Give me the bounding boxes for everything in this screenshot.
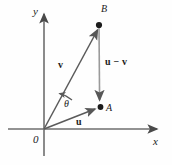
x-axis-label: x [153, 136, 158, 147]
point-a-label: A [106, 103, 112, 113]
vector-u-minus-v-arrow [99, 27, 100, 100]
y-axis-label: y [33, 6, 38, 17]
point-b-dot [96, 22, 102, 28]
point-b-label: B [101, 4, 107, 14]
vector-v-label: v [58, 60, 63, 70]
angle-theta-label: θ [64, 99, 69, 109]
vector-u-arrow [44, 109, 95, 129]
vector-diagram-figure: y x 0 B A v u u − v θ [0, 0, 172, 165]
vector-v-arrow [44, 30, 98, 129]
origin-label: 0 [33, 134, 39, 145]
vector-u-label: u [76, 117, 82, 127]
point-a-dot [98, 104, 104, 110]
vector-u-minus-v-label: u − v [105, 57, 127, 67]
vector-diagram-canvas [0, 0, 172, 165]
